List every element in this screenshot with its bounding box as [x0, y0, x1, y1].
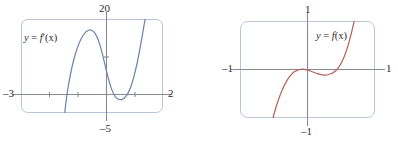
right-function-label: y = f(x): [316, 31, 347, 42]
left-xmin-tick-label: –3: [3, 88, 14, 99]
right-xmin-tick-label: –1: [222, 63, 233, 74]
left-label-arg: (x): [45, 32, 57, 43]
left-ymin-tick-label: –5: [100, 123, 111, 134]
left-function-label: y = f′(x): [24, 33, 57, 44]
left-ymax-tick-label: 20: [99, 3, 110, 14]
right-panel: –1 1 1 –1 y = f(x): [199, 0, 398, 145]
left-label-y: y: [24, 32, 29, 43]
right-xmax-tick-label: 1: [386, 63, 392, 74]
figure-container: –3 2 20 –5 y = f′(x): [0, 0, 398, 145]
right-ymin-tick-label: –1: [301, 126, 312, 137]
right-label-y: y: [316, 30, 321, 41]
left-xmax-tick-label: 2: [168, 88, 174, 99]
right-ymax-tick-label: 1: [305, 4, 311, 15]
right-label-arg: (x): [335, 30, 347, 41]
left-panel: –3 2 20 –5 y = f′(x): [0, 0, 199, 145]
